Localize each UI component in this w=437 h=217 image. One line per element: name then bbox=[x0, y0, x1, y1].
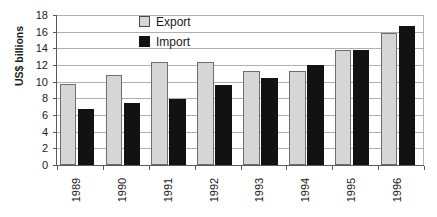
bar-export-1989 bbox=[60, 84, 77, 165]
x-axis-tick-label: 1989 bbox=[70, 170, 82, 210]
y-axis-tick-label: 8 bbox=[42, 93, 48, 104]
bar-export-1991 bbox=[151, 62, 168, 165]
plot-area bbox=[56, 15, 424, 166]
y-axis-tick-label: 4 bbox=[42, 126, 48, 137]
legend-swatch-export-icon bbox=[139, 16, 150, 27]
legend-swatch-import-icon bbox=[139, 36, 150, 47]
bar-import-1995 bbox=[353, 50, 370, 165]
bar-import-1990 bbox=[124, 103, 141, 165]
x-axis-tick-label: 1994 bbox=[299, 170, 311, 210]
y-axis-tick-label: 14 bbox=[36, 43, 48, 54]
x-axis-tick-mark bbox=[424, 166, 425, 170]
y-axis-tick-label: 6 bbox=[42, 110, 48, 121]
y-axis-tick-label: 18 bbox=[36, 10, 48, 21]
y-axis-tick-labels: 181614121086420 bbox=[0, 0, 53, 217]
x-axis-tick-label: 1995 bbox=[345, 170, 357, 210]
x-axis-tick-label: 1993 bbox=[253, 170, 265, 210]
x-axis-tick-labels: 19891990199119921993199419951996 bbox=[56, 166, 423, 217]
bar-import-1992 bbox=[215, 85, 232, 165]
chart-legend: Export Import bbox=[139, 13, 239, 53]
bar-import-1989 bbox=[78, 109, 95, 165]
bar-export-1994 bbox=[289, 71, 306, 165]
y-axis-tick-label: 0 bbox=[42, 160, 48, 171]
x-axis-tick-label: 1991 bbox=[162, 170, 174, 210]
legend-label-export: Export bbox=[156, 16, 191, 28]
legend-item-export: Export bbox=[139, 13, 239, 30]
bar-export-1992 bbox=[197, 62, 214, 165]
bar-import-1991 bbox=[169, 99, 186, 165]
legend-item-import: Import bbox=[139, 33, 239, 50]
legend-label-import: Import bbox=[156, 36, 190, 48]
y-axis-tick-label: 10 bbox=[36, 76, 48, 87]
bar-import-1993 bbox=[261, 78, 278, 165]
bar-export-1990 bbox=[106, 75, 123, 165]
bar-import-1994 bbox=[307, 65, 324, 165]
bar-export-1996 bbox=[381, 33, 398, 165]
bar-chart: US$ billions 181614121086420 19891990199… bbox=[0, 0, 437, 217]
y-axis-tick-label: 12 bbox=[36, 60, 48, 71]
y-axis-tick-label: 16 bbox=[36, 26, 48, 37]
x-axis-tick-label: 1990 bbox=[116, 170, 128, 210]
y-axis-tick-label: 2 bbox=[42, 143, 48, 154]
x-axis-tick-label: 1992 bbox=[208, 170, 220, 210]
bar-export-1995 bbox=[335, 50, 352, 165]
bars-layer bbox=[57, 15, 424, 165]
bar-import-1996 bbox=[399, 26, 416, 165]
x-axis-tick-label: 1996 bbox=[391, 170, 403, 210]
bar-export-1993 bbox=[243, 71, 260, 165]
